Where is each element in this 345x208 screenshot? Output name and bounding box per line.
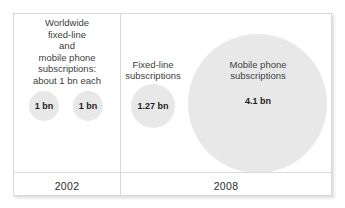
bubble-fixed-line-2008-label: Fixed-line subscriptions	[115, 59, 191, 82]
bubble-fixed-line-2008-value: 1.27 bn	[129, 101, 177, 111]
bubble-mobile-phone-2008-value: 4.1 bn	[233, 96, 283, 106]
panel-2008-year-label: 2008	[121, 180, 331, 192]
bubble-chart-figure: Worldwide fixed-line and mobile phone su…	[13, 13, 332, 196]
panel-2002-year-label: 2002	[14, 180, 120, 192]
bubble-fixed-line-2002-value: 1 bn	[24, 101, 64, 111]
bubble-mobile-phone-2002-value: 1 bn	[68, 101, 108, 111]
caption-line-2: fixed-line	[14, 29, 120, 41]
panel-2008: Fixed-line subscriptions 1.27 bn Mobile …	[120, 14, 331, 195]
bubble-mobile-phone-2008-label: Mobile phone subscriptions	[210, 59, 306, 82]
caption-line-4: mobile phone	[14, 52, 120, 64]
caption-line-1: Worldwide	[14, 17, 120, 29]
panel-2008-year-divider	[121, 172, 331, 173]
caption-line-5: subscriptions:	[14, 63, 120, 75]
panel-2002: Worldwide fixed-line and mobile phone su…	[14, 14, 120, 195]
caption-line-6: about 1 bn each	[14, 75, 120, 87]
caption-line-3: and	[14, 40, 120, 52]
bubble-mobile-phone-2008-label-line-1: Mobile phone	[210, 59, 306, 70]
bubble-mobile-phone-2008-label-line-2: subscriptions	[210, 70, 306, 81]
bubble-fixed-line-2008-label-line-1: Fixed-line	[115, 59, 191, 70]
panel-2002-year-divider	[14, 172, 120, 173]
panel-2002-caption: Worldwide fixed-line and mobile phone su…	[14, 17, 120, 87]
bubble-fixed-line-2008-label-line-2: subscriptions	[115, 70, 191, 81]
